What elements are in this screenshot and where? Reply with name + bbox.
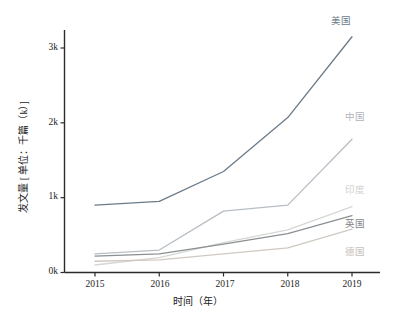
series-line-印度 (95, 207, 352, 265)
axis-spines (65, 30, 381, 273)
x-tick-label-2017: 2017 (203, 280, 247, 290)
x-tick-label-2016: 2016 (138, 280, 182, 290)
series-label-deguo: 德国 (345, 248, 365, 258)
y-axis-title: 发文量 [ 单位：千篇（k）] (19, 47, 29, 267)
x-tick-label-2019: 2019 (330, 280, 374, 290)
y-tick-label-3: 3k (28, 43, 58, 53)
x-tick-label-2018: 2018 (268, 280, 312, 290)
series-lines (95, 37, 352, 265)
plot-area (0, 0, 396, 319)
series-label-yindu: 印度 (345, 186, 365, 196)
series-line-中国 (95, 139, 352, 253)
series-label-yingguo: 英国 (345, 220, 365, 230)
y-tick-label-0: 0k (28, 267, 58, 277)
x-tick-label-2015: 2015 (73, 280, 117, 290)
series-label-zhongguo: 中国 (345, 113, 365, 123)
x-axis-title: 时间（年） (0, 297, 396, 307)
series-line-英国 (95, 216, 352, 256)
series-label-meiguo: 美国 (331, 17, 351, 27)
y-tick-label-2: 2k (28, 118, 58, 128)
series-line-美国 (95, 37, 352, 205)
line-chart-figure: 0k 1k 2k 3k 2015 2016 2017 2018 2019 时间（… (0, 0, 396, 319)
series-line-德国 (95, 229, 352, 261)
y-tick-label-1: 1k (28, 192, 58, 202)
